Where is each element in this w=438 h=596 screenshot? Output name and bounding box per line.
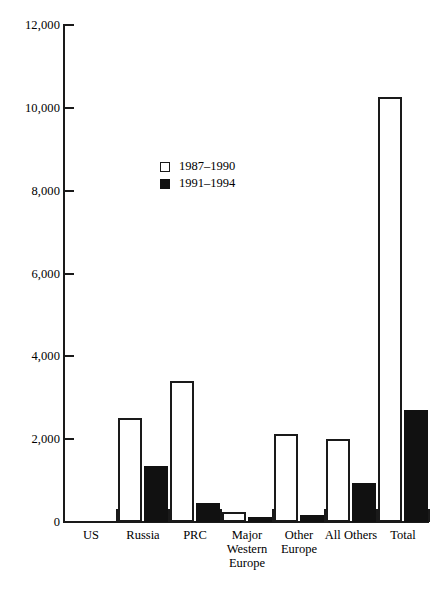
bar-chart: 02,0004,0006,0008,00010,00012,000 USRuss… bbox=[0, 0, 438, 596]
y-axis-tick bbox=[65, 438, 74, 440]
bar-series2 bbox=[196, 503, 220, 522]
bar-series2 bbox=[248, 517, 272, 522]
y-axis-tick bbox=[65, 24, 74, 26]
y-axis-tick bbox=[65, 273, 74, 275]
legend-swatch-filled-icon bbox=[160, 179, 170, 189]
bar-series2 bbox=[352, 483, 376, 522]
bar-series1 bbox=[118, 418, 142, 522]
page-footer-strip bbox=[0, 580, 438, 596]
y-axis-tick bbox=[65, 107, 74, 109]
legend-swatch-open-icon bbox=[160, 162, 170, 172]
y-axis-tick-label: 0 bbox=[4, 516, 60, 528]
bar-series2 bbox=[300, 515, 324, 522]
bar-series1 bbox=[326, 439, 350, 522]
bar-series1 bbox=[274, 434, 298, 522]
y-axis-tick bbox=[65, 190, 74, 192]
x-axis-category-label: Total bbox=[371, 528, 435, 542]
chart-legend: 1987–1990 1991–1994 bbox=[160, 158, 235, 192]
y-axis-tick-label: 6,000 bbox=[4, 268, 60, 280]
y-axis-tick-label: 12,000 bbox=[4, 19, 60, 31]
legend-label: 1991–1994 bbox=[179, 177, 235, 190]
y-axis-tick-label: 4,000 bbox=[4, 350, 60, 362]
y-axis-tick-label: 2,000 bbox=[4, 433, 60, 445]
y-axis-tick bbox=[65, 521, 74, 523]
bar-series2 bbox=[144, 466, 168, 522]
y-axis-tick-label: 10,000 bbox=[4, 102, 60, 114]
y-axis-tick bbox=[65, 355, 74, 357]
legend-label: 1987–1990 bbox=[179, 160, 235, 173]
x-axis-group-tick bbox=[428, 509, 430, 522]
y-axis-tick-label: 8,000 bbox=[4, 185, 60, 197]
bar-series1 bbox=[170, 381, 194, 522]
bar-series2 bbox=[404, 410, 428, 522]
bar-series1 bbox=[222, 512, 246, 522]
bar-series1 bbox=[378, 97, 402, 522]
legend-item: 1987–1990 bbox=[160, 158, 235, 175]
legend-item: 1991–1994 bbox=[160, 175, 235, 192]
